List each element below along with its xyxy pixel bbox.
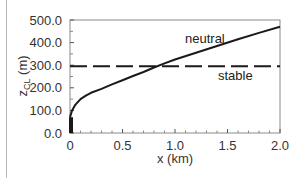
x-tick-label: 0.5 <box>113 138 131 153</box>
y-tick-label: 100.0 <box>29 103 62 118</box>
y-tick-label: 400.0 <box>29 35 62 50</box>
y-axis-title-unit: (m) <box>15 55 30 78</box>
origin-bar <box>69 117 73 133</box>
y-tick-label: 300.0 <box>29 58 62 73</box>
x-axis-title: x (km) <box>157 151 193 166</box>
x-tick-label: 0 <box>66 138 73 153</box>
x-tick-label: 2.0 <box>271 138 289 153</box>
stable-series-label: stable <box>218 68 253 83</box>
y-tick-label: 200.0 <box>29 80 62 95</box>
chart: 0.0100.0200.0300.0400.0500.0 00.51.01.52… <box>0 0 296 178</box>
y-axis-title-sub: CL <box>22 79 32 91</box>
neutral-series-label: neutral <box>185 31 225 46</box>
y-axis: 0.0100.0200.0300.0400.0500.0 <box>29 13 74 141</box>
y-tick-label: 500.0 <box>29 13 62 28</box>
y-axis-title: zCL (m) <box>15 55 32 96</box>
x-tick-label: 1.5 <box>218 138 236 153</box>
y-tick-label: 0.0 <box>44 126 62 141</box>
